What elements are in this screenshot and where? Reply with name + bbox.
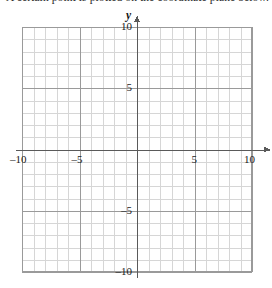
axis-arrowheads: [134, 16, 270, 153]
x-tick-label-neg10: –10: [10, 154, 27, 165]
y-tick-label-5: 5: [127, 82, 133, 93]
coordinate-plane-figure: y x –10 –5 5 10 10 5 –5 –10: [0, 0, 272, 288]
x-tick-label-5: 5: [192, 154, 198, 165]
y-tick-label-neg10: –10: [116, 266, 133, 277]
y-tick-label-10: 10: [121, 21, 132, 32]
x-tick-label-neg5: –5: [72, 154, 83, 165]
axes: [16, 16, 270, 278]
grid-svg: [22, 27, 252, 272]
grid-area: [22, 27, 252, 272]
y-tick-label-neg5: –5: [121, 205, 132, 216]
x-tick-label-10: 10: [244, 154, 255, 165]
